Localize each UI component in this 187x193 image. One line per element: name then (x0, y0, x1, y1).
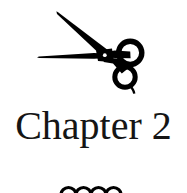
chapter-title: Chapter 2 (0, 104, 187, 148)
scissors-icon (34, 6, 154, 96)
chapter-opener-page: Chapter 2 (0, 0, 187, 193)
scalloped-wave-rule-icon (59, 181, 131, 193)
